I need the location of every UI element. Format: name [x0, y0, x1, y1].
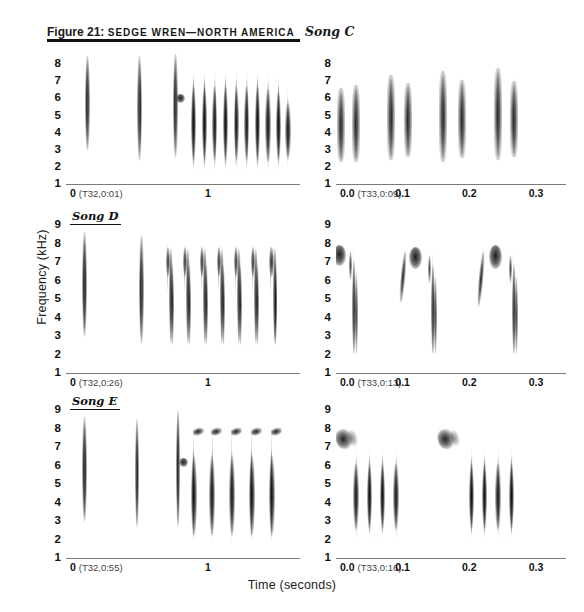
y-tick-label: 3 [55, 144, 61, 156]
y-tick-label: 2 [55, 161, 61, 173]
spectrogram-trace [210, 427, 223, 437]
y-tick-label: 8 [325, 238, 331, 250]
y-axis-title: Frequency (kHz) [35, 207, 49, 347]
spectrogram-trace [515, 277, 519, 355]
spectrogram-trace [355, 274, 359, 355]
spectrogram-trace [274, 265, 277, 345]
y-tick-label: 4 [55, 497, 61, 509]
spectrogram-trace [184, 244, 185, 293]
spectrogram-trace [434, 277, 438, 355]
y-tick-label: 2 [55, 534, 61, 546]
spectrogram-trace [252, 244, 253, 293]
x-tick-label: 0.0 (T33,0:09) [340, 187, 401, 199]
recording-reference: (T32,0:01) [79, 188, 123, 199]
y-tick-label: 9 [325, 404, 331, 416]
spectrogram-trace [462, 75, 463, 163]
y-tick-label: 9 [55, 404, 61, 416]
spectrogram-trace [353, 248, 354, 358]
y-tick-label: 7 [325, 441, 331, 453]
spectrogram-trace [270, 427, 283, 437]
spectrogram-trace [167, 244, 168, 293]
x-tick-label: 0.2 [462, 187, 477, 199]
x-tick-label: 0.2 [462, 376, 477, 388]
y-tick-label: 6 [55, 275, 61, 287]
spectrogram-trace [442, 66, 443, 166]
song-label-song-e: Song E [70, 395, 120, 411]
spectrogram-trace [84, 229, 85, 340]
spectrogram-trace [270, 244, 271, 293]
spectrogram-trace [230, 427, 243, 437]
gridline [336, 558, 566, 559]
y-tick-label: 7 [325, 256, 331, 268]
x-tick-value: 0.0 [340, 376, 355, 388]
y-tick-label: 2 [325, 349, 331, 361]
figure-song-tag: Song C [305, 24, 355, 39]
y-tick-label: 7 [55, 441, 61, 453]
y-tick-label: 4 [55, 312, 61, 324]
figure-title: Figure 21: SEDGE WREN—NORTH AMERICA Song… [47, 24, 354, 39]
y-tick-label: 6 [325, 93, 331, 105]
plot-area [336, 225, 566, 373]
spectrogram-trace [238, 243, 239, 349]
spectrogram-panel-song-e-left: 9876543210 (T32,0:55)1Song E [66, 410, 300, 558]
spectrogram-trace [381, 458, 384, 533]
x-tick-label: 0.1 [395, 561, 410, 573]
x-tick-value: 0.0 [340, 561, 355, 573]
spectrogram-trace [489, 245, 502, 269]
spectrogram-trace [170, 243, 171, 349]
y-tick-label: 1 [325, 178, 331, 190]
spectrogram-trace [192, 427, 205, 437]
gridline [66, 558, 300, 559]
spectrogram-trace [270, 450, 273, 537]
x-tick-label: 1 [205, 376, 211, 388]
y-tick-label: 5 [325, 110, 331, 122]
spectrogram-trace [277, 86, 280, 165]
y-tick-label: 3 [55, 330, 61, 342]
y-tick-label: 3 [325, 515, 331, 527]
gridline [336, 373, 566, 374]
x-tick-label: 0 (T32,0:26) [70, 376, 123, 388]
y-tick-label: 5 [325, 293, 331, 305]
x-tick-label: 0.3 [529, 561, 544, 573]
spectrogram-trace [192, 79, 195, 166]
spectrogram-trace [221, 243, 222, 349]
y-tick-label: 2 [325, 534, 331, 546]
y-tick-label: 8 [55, 238, 61, 250]
y-tick-label: 1 [325, 367, 331, 379]
spectrogram-trace [256, 79, 259, 166]
spectrogram-trace [483, 458, 486, 533]
y-tick-label: 7 [55, 76, 61, 88]
x-tick-value: 0.0 [340, 187, 355, 199]
plot-area [336, 410, 566, 558]
spectrogram-trace [87, 54, 88, 154]
title-underline [47, 39, 300, 42]
y-tick-label: 7 [325, 76, 331, 88]
y-tick-label: 1 [325, 552, 331, 564]
spectrogram-trace [239, 265, 242, 345]
x-tick-label: 0.3 [529, 187, 544, 199]
y-tick-label: 2 [55, 349, 61, 361]
x-tick-value: 0 [70, 376, 76, 388]
spectrogram-trace [432, 252, 433, 358]
y-tick-label: 8 [55, 423, 61, 435]
y-tick-label: 8 [325, 423, 331, 435]
spectrogram-trace [214, 79, 217, 166]
spectrogram-panel-song-e-right: 9876543210.0 (T33,0:16)0.10.20.3 [336, 410, 566, 558]
spectrogram-trace [171, 265, 174, 345]
y-tick-label: 5 [55, 110, 61, 122]
y-tick-label: 3 [325, 330, 331, 342]
figure-number: Figure 21: [47, 25, 104, 39]
spectrogram-trace [188, 265, 191, 345]
x-tick-label: 0 (T32,0:55) [70, 561, 123, 573]
y-tick-label: 4 [55, 127, 61, 139]
spectrogram-trace [274, 243, 275, 349]
recording-reference: (T32,0:55) [79, 562, 123, 573]
y-tick-label: 5 [55, 293, 61, 305]
spectrogram-trace [141, 233, 142, 347]
spectrogram-trace [179, 458, 188, 467]
y-tick-label: 5 [55, 478, 61, 490]
spectrogram-panel-song-d-right: 9876543210.0 (T33,0:13)0.10.20.3 [336, 225, 566, 373]
spectrogram-trace [192, 450, 195, 537]
figure-caption: SEDGE WREN—NORTH AMERICA [108, 27, 295, 38]
spectrogram-trace [84, 414, 85, 525]
